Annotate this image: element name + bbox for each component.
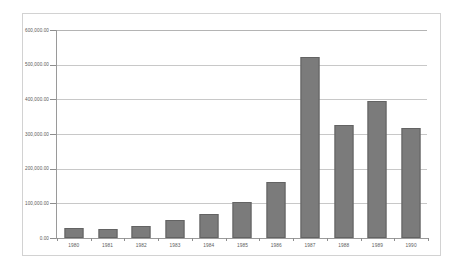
- x-axis-tick: [259, 238, 260, 241]
- x-axis-tick: [192, 238, 193, 241]
- bar[interactable]: [166, 220, 185, 238]
- x-axis-tick: [293, 238, 294, 241]
- x-axis-tick: [158, 238, 159, 241]
- y-axis-label: 600,000.00: [1, 28, 49, 33]
- x-axis-label: 1990: [396, 243, 426, 249]
- bar-slot: [259, 30, 293, 238]
- bar-slot: [57, 30, 91, 238]
- bar[interactable]: [199, 214, 218, 238]
- y-axis-label: 100,000.00: [1, 201, 49, 206]
- bar-slot: [327, 30, 361, 238]
- x-axis-label: 1987: [295, 243, 325, 249]
- x-axis-label: 1983: [160, 243, 190, 249]
- bar-slot: [192, 30, 226, 238]
- x-axis-label: 1988: [329, 243, 359, 249]
- x-axis-tick: [428, 238, 429, 241]
- y-axis-label: 500,000.00: [1, 62, 49, 67]
- bar-slot: [361, 30, 395, 238]
- x-axis-tick: [91, 238, 92, 241]
- x-axis-tick: [361, 238, 362, 241]
- bar-series: [57, 30, 428, 238]
- bar[interactable]: [300, 57, 319, 238]
- x-axis-tick: [394, 238, 395, 241]
- x-axis-label: 1989: [362, 243, 392, 249]
- x-axis-label: 1986: [261, 243, 291, 249]
- x-axis-tick: [327, 238, 328, 241]
- x-axis-label: 1980: [59, 243, 89, 249]
- x-axis-label: 1981: [93, 243, 123, 249]
- x-axis-tick: [57, 238, 58, 241]
- y-axis-label: 400,000.00: [1, 97, 49, 102]
- bar[interactable]: [402, 128, 421, 238]
- bar-slot: [226, 30, 260, 238]
- bar-slot: [394, 30, 428, 238]
- y-axis-labels-group: 0.00100,000.00200,000.00300,000.00400,00…: [0, 0, 49, 269]
- bar[interactable]: [267, 182, 286, 239]
- x-axis-line: [56, 238, 428, 239]
- x-axis-tick: [226, 238, 227, 241]
- y-axis-label: 300,000.00: [1, 132, 49, 137]
- x-axis-label: 1984: [194, 243, 224, 249]
- x-axis-label: 1982: [126, 243, 156, 249]
- bar[interactable]: [132, 226, 151, 238]
- bar[interactable]: [233, 202, 252, 238]
- bar[interactable]: [368, 101, 387, 238]
- x-axis-tick: [124, 238, 125, 241]
- bar-slot: [293, 30, 327, 238]
- bar[interactable]: [64, 228, 83, 238]
- bar-slot: [124, 30, 158, 238]
- bar[interactable]: [98, 229, 117, 238]
- y-axis-label: 0.00: [1, 236, 49, 241]
- bar[interactable]: [334, 125, 353, 238]
- bar-slot: [158, 30, 192, 238]
- x-axis-label: 1985: [228, 243, 258, 249]
- bar-slot: [91, 30, 125, 238]
- y-axis-label: 200,000.00: [1, 166, 49, 171]
